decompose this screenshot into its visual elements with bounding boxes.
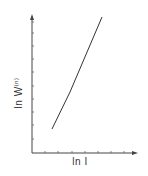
y-axis-label: ln W(n) xyxy=(13,75,27,111)
data-line xyxy=(52,17,102,129)
y-axis-label-superscript: (n) xyxy=(13,78,19,87)
y-axis-arrow-icon xyxy=(30,14,34,20)
x-axis-arrow-icon xyxy=(132,151,138,155)
x-axis-label: ln I xyxy=(60,156,100,167)
y-axis-label-main: ln W xyxy=(13,86,24,108)
